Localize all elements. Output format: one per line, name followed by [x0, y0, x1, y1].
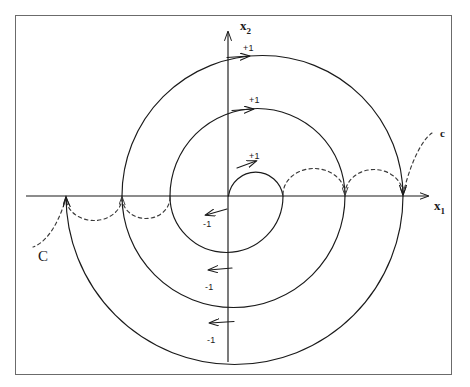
control-label-outer-upper: +1: [243, 44, 254, 53]
figure-container: x2 x1 c C +1 +1 +1 -1 -1 -1: [0, 0, 470, 387]
switching-arc-left-3: [33, 198, 66, 248]
switching-arc-right-2: [345, 170, 403, 195]
arrowhead-outer-upper: [227, 56, 249, 58]
spiral-arc-outer-upper: [122, 55, 403, 196]
control-label-outer-lower: -1: [207, 336, 215, 345]
spiral-arc-outer-lower: [66, 196, 403, 365]
switching-curve-label-lower: c: [440, 128, 445, 139]
control-label-inner-upper: +1: [249, 152, 260, 161]
switching-arc-right-1: [283, 169, 345, 195]
x2-axis-label: x2: [240, 19, 251, 36]
switching-arc-left-2: [66, 198, 122, 221]
arrowhead-inner-upper: [237, 161, 256, 168]
axis-group: [26, 32, 428, 362]
arrowhead-outer-lower: [210, 322, 234, 324]
control-label-middle-upper: +1: [249, 96, 260, 105]
switching-curve-label-upper: C: [38, 249, 48, 264]
control-label-inner-lower: -1: [203, 220, 211, 229]
spiral-arc-inner-upper: [229, 172, 284, 196]
spiral-arc-inner-lower: [170, 196, 283, 253]
arrowhead-axis-left: [66, 198, 67, 205]
phase-plane-plot: [0, 0, 470, 387]
switching-curve: [33, 133, 432, 247]
x1-axis-label: x1: [434, 199, 445, 216]
spiral-trajectory: [66, 55, 403, 364]
switching-arc-right-3: [403, 133, 432, 195]
switching-arc-left-1: [122, 198, 170, 219]
control-label-middle-lower: -1: [205, 283, 213, 292]
arrowhead-middle-upper: [232, 109, 253, 111]
arrowhead-inner-lower: [206, 209, 227, 215]
